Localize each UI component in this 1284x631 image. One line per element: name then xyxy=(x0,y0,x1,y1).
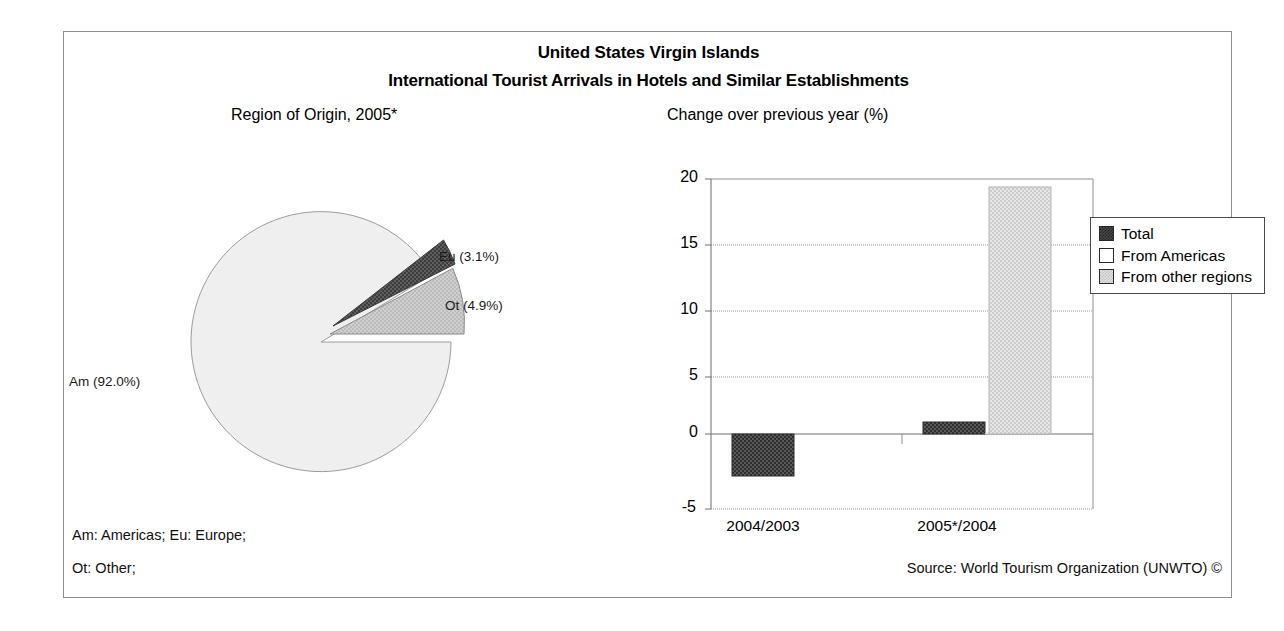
y-axis-tick-10: 10 xyxy=(664,300,698,318)
footnote-abbreviations-line-1: Am: Americas; Eu: Europe; xyxy=(72,527,246,543)
legend-swatch-from-other-regions xyxy=(1099,269,1114,284)
bar-chart-svg xyxy=(64,32,1233,552)
y-axis-tick-0: 0 xyxy=(664,423,698,441)
legend-item-from-other-regions[interactable]: From other regions xyxy=(1099,269,1256,285)
figure-root: United States Virgin Islands Internation… xyxy=(0,0,1284,631)
legend-label-from-other-regions: From other regions xyxy=(1121,269,1252,285)
source-attribution: Source: World Tourism Organization (UNWT… xyxy=(907,560,1222,576)
legend-item-from-americas[interactable]: From Americas xyxy=(1099,248,1256,264)
figure-frame: United States Virgin Islands Internation… xyxy=(63,31,1232,598)
y-axis-tick-20: 20 xyxy=(664,168,698,186)
x-axis-tick-2005-2004: 2005*/2004 xyxy=(894,517,1020,535)
legend-swatch-total xyxy=(1099,226,1114,241)
y-axis-tick-5: 5 xyxy=(664,366,698,384)
legend-item-total[interactable]: Total xyxy=(1099,226,1256,242)
bar-total-2005-2004 xyxy=(923,422,985,434)
bar-chart-legend: Total From Americas From other regions xyxy=(1090,217,1265,294)
bar-chart-panel: 20 15 10 5 0 -5 2004/2003 2005*/2004 Tot… xyxy=(64,32,1233,552)
bar-other-regions-2005-2004 xyxy=(989,187,1051,434)
legend-swatch-from-americas xyxy=(1099,248,1114,263)
legend-label-from-americas: From Americas xyxy=(1121,248,1225,264)
footnote-abbreviations-line-2: Ot: Other; xyxy=(72,560,136,576)
bar-total-2004-2003 xyxy=(732,434,794,476)
x-axis-tick-2004-2003: 2004/2003 xyxy=(703,517,823,535)
y-axis-tick-minus-5: -5 xyxy=(662,498,696,516)
legend-label-total: Total xyxy=(1121,226,1154,242)
y-axis-tick-15: 15 xyxy=(664,234,698,252)
bar-americas-2005-2004 xyxy=(985,433,989,434)
